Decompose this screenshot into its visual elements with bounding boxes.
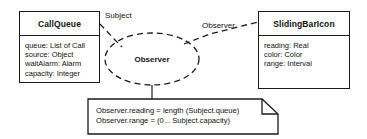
role-label-observer: Observer (202, 21, 235, 30)
diagram-canvas: CallQueue queue: List of Call source: Ob… (0, 0, 367, 139)
role-label-subject: Subject (105, 11, 132, 20)
class-box-callqueue[interactable]: CallQueue queue: List of Call source: Ob… (19, 11, 100, 83)
attribute-item: color: Color (264, 50, 349, 59)
collaboration-label: Observer (117, 55, 187, 64)
class-title-callqueue: CallQueue (20, 12, 99, 36)
attribute-item: capacity: Integer (25, 69, 99, 78)
class-attributes-callqueue: queue: List of Call source: Object waitA… (20, 36, 99, 78)
note-line-2: Observer.range = (0 .. Subject.capacity) (96, 116, 230, 126)
attribute-item: range: Interval (264, 59, 349, 68)
attribute-item: reading: Real (264, 41, 349, 50)
attribute-item: waitAlarm: Alarm (25, 59, 99, 68)
class-box-slidingbaricon[interactable]: SlidingBarIcon reading: Real color: Colo… (258, 11, 350, 89)
attribute-item: source: Object (25, 50, 99, 59)
attribute-item: queue: List of Call (25, 41, 99, 50)
class-title-slidingbaricon: SlidingBarIcon (259, 12, 349, 36)
class-attributes-slidingbaricon: reading: Real color: Color range: Interv… (259, 36, 349, 69)
note-line-1: Observer.reading = length (Subject.queue… (96, 106, 239, 116)
